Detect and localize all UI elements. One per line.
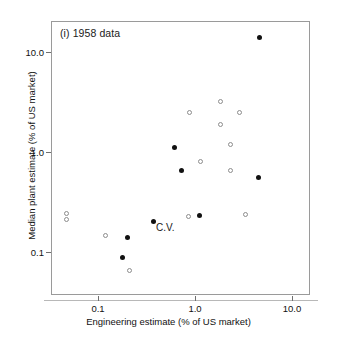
y-tick-mark	[46, 152, 51, 153]
data-point-open	[228, 168, 233, 173]
plot-annotation: C.V.	[156, 222, 175, 233]
y-tick-mark	[46, 252, 51, 253]
x-tick-mark	[292, 296, 293, 301]
data-point-open	[64, 217, 69, 222]
data-point-filled	[125, 235, 130, 240]
data-point-open	[64, 211, 69, 216]
data-point-open	[187, 110, 192, 115]
data-point-filled	[179, 168, 184, 173]
y-tick-mark	[46, 52, 51, 53]
y-axis-title: Median plant estimate (% of US market)	[26, 56, 37, 256]
x-tick-label: 0.1	[91, 303, 104, 314]
data-point-filled	[197, 213, 202, 218]
x-tick-mark	[98, 296, 99, 301]
x-tick-label: 10.0	[283, 303, 302, 314]
data-point-filled	[257, 35, 262, 40]
x-axis-title: Engineering estimate (% of US market)	[0, 316, 337, 327]
panel-label: (i) 1958 data	[60, 27, 120, 39]
data-point-open	[186, 214, 191, 219]
x-tick-label: 1.0	[188, 303, 201, 314]
data-point-open	[228, 142, 233, 147]
x-tick-mark	[195, 296, 196, 301]
x-axis-line	[44, 300, 318, 301]
plot-area	[51, 21, 310, 295]
figure-panel: (i) 1958 data C.V. 0.11.010.0 0.11.010.0…	[0, 0, 337, 352]
data-point-open	[127, 268, 132, 273]
